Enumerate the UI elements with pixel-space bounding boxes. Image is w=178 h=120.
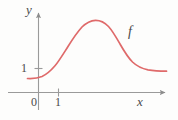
- x-tick-label-one: 1: [55, 96, 61, 108]
- plot-canvas: [0, 0, 178, 120]
- y-axis-label: y: [26, 3, 32, 16]
- y-tick-label-one: 1: [21, 62, 27, 74]
- origin-tick-label: 0: [31, 96, 37, 108]
- curve-label-f: f: [128, 25, 132, 39]
- x-axis-label: x: [137, 95, 143, 108]
- function-graph-figure: y x f 0 1 1: [0, 0, 178, 120]
- function-curve-f: [28, 20, 167, 78]
